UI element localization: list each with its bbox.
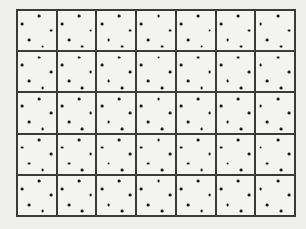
dot [121, 45, 124, 48]
dot [67, 39, 70, 42]
dot [107, 80, 110, 83]
dot [187, 80, 190, 83]
dot [147, 80, 150, 83]
dot [41, 128, 44, 131]
dot [21, 64, 24, 67]
dot [21, 146, 24, 149]
dot [240, 45, 243, 48]
dot [219, 187, 222, 190]
dot [147, 162, 150, 165]
grid-cell [255, 175, 295, 216]
dot [78, 56, 81, 59]
dot [157, 97, 160, 100]
dot [107, 39, 110, 42]
dot [280, 210, 283, 213]
dot [38, 56, 41, 59]
grid-cell [57, 134, 97, 175]
dot [288, 70, 291, 73]
dot [187, 203, 190, 206]
dot [248, 70, 251, 73]
grid-cell [216, 51, 256, 92]
dot [208, 70, 211, 73]
grid-cell [176, 51, 216, 92]
dot [129, 29, 132, 32]
dot [180, 187, 183, 190]
dot [38, 180, 41, 183]
grid-cell [255, 92, 295, 133]
dot [219, 146, 222, 149]
grid-cell [176, 10, 216, 51]
dot [288, 29, 291, 32]
dot [240, 169, 243, 172]
dot [67, 121, 70, 124]
dot [81, 128, 84, 131]
dot [78, 180, 81, 183]
grid-cell [216, 92, 256, 133]
dot [49, 112, 52, 115]
grid-cell [57, 51, 97, 92]
dot [200, 210, 203, 213]
dot [61, 187, 64, 190]
dot [197, 180, 200, 183]
dot [21, 23, 24, 26]
grid-cell [17, 134, 57, 175]
dot [266, 121, 269, 124]
dot [140, 187, 143, 190]
dot [226, 203, 229, 206]
dot [160, 86, 163, 89]
dot [61, 146, 64, 149]
dot [219, 64, 222, 67]
dot [180, 64, 183, 67]
dot [288, 112, 291, 115]
dot [118, 97, 121, 100]
dot [259, 187, 262, 190]
grid-cell [216, 175, 256, 216]
dot [121, 128, 124, 131]
dot [28, 162, 31, 165]
dot [160, 45, 163, 48]
dot [157, 15, 160, 18]
grid-cell [96, 92, 136, 133]
dot [226, 162, 229, 165]
dot [100, 23, 103, 26]
grid-cell [57, 92, 97, 133]
dot [147, 203, 150, 206]
dot [259, 146, 262, 149]
dot [237, 15, 240, 18]
dot [147, 121, 150, 124]
dot [288, 153, 291, 156]
dot [200, 86, 203, 89]
dot [140, 23, 143, 26]
dot [140, 146, 143, 149]
dot [107, 203, 110, 206]
dot [237, 139, 240, 142]
grid-cell [216, 134, 256, 175]
dot [28, 121, 31, 124]
dot [140, 64, 143, 67]
dot [160, 128, 163, 131]
grid-cell [176, 92, 216, 133]
grid-cell [57, 175, 97, 216]
grid-cell [216, 10, 256, 51]
grid-cell [96, 51, 136, 92]
dot [61, 105, 64, 108]
dot [49, 70, 52, 73]
dot [219, 105, 222, 108]
dot [180, 105, 183, 108]
dot [200, 128, 203, 131]
dot [266, 203, 269, 206]
dot [21, 187, 24, 190]
grid-cell [96, 10, 136, 51]
dot [157, 56, 160, 59]
dot [121, 210, 124, 213]
dot [61, 64, 64, 67]
dot [180, 146, 183, 149]
figure-canvas [0, 0, 306, 229]
dot [38, 15, 41, 18]
dot [248, 153, 251, 156]
dot [276, 97, 279, 100]
dot [81, 86, 84, 89]
dot [67, 203, 70, 206]
dot [240, 86, 243, 89]
dot [89, 70, 92, 73]
